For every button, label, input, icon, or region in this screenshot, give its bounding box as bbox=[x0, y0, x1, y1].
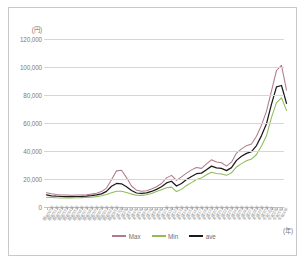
gridline bbox=[44, 39, 284, 40]
gridline bbox=[44, 95, 284, 96]
y-axis-unit-label: (円) bbox=[0, 26, 42, 33]
legend-swatch-ave bbox=[189, 235, 203, 237]
y-axis-labels: (円) 020,00040,00060,00080,000100,000120,… bbox=[0, 0, 42, 263]
chart-figure: (円) 020,00040,00060,00080,000100,000120,… bbox=[0, 0, 307, 263]
y-axis-tick-label: 40,000 bbox=[23, 148, 42, 155]
legend-swatch-max bbox=[112, 235, 126, 237]
legend-label-ave: ave bbox=[206, 233, 216, 240]
series-line-max bbox=[47, 65, 287, 195]
legend-item-min[interactable]: Min bbox=[152, 233, 179, 240]
y-axis-tick-label: 100,000 bbox=[20, 64, 42, 71]
plot-canvas bbox=[44, 39, 284, 207]
chart-plot-region: (円) 020,00040,00060,00080,000100,000120,… bbox=[0, 0, 307, 263]
y-axis-tick-label: 60,000 bbox=[23, 120, 42, 127]
y-axis-tick-label: 80,000 bbox=[23, 92, 42, 99]
y-axis-tick-label: 20,000 bbox=[23, 176, 42, 183]
x-axis-unit-label: (年) bbox=[283, 227, 293, 234]
legend-swatch-min bbox=[152, 235, 166, 237]
gridline bbox=[44, 123, 284, 124]
y-axis-tick-label: 0 bbox=[39, 204, 42, 211]
x-axis-tick-labels: 昭和50年昭和51年昭和52年昭和53年昭和54年昭和55年昭和56年昭和57年… bbox=[44, 209, 284, 229]
chart-legend: MaxMinave bbox=[44, 230, 284, 242]
legend-item-ave[interactable]: ave bbox=[189, 233, 216, 240]
legend-label-max: Max bbox=[129, 233, 141, 240]
gridline bbox=[44, 67, 284, 68]
y-axis-tick-label: 120,000 bbox=[20, 36, 42, 43]
gridline bbox=[44, 151, 284, 152]
legend-item-max[interactable]: Max bbox=[112, 233, 140, 240]
legend-label-min: Min bbox=[168, 233, 178, 240]
gridline bbox=[44, 179, 284, 180]
